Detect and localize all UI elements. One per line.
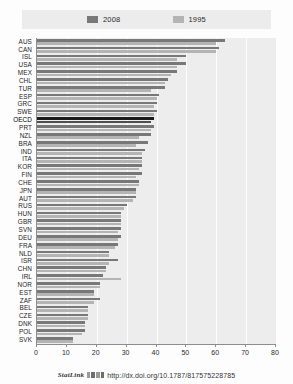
x-axis-tick-label-60: 60 xyxy=(211,349,219,356)
x-axis-tick xyxy=(245,344,246,347)
bar-row xyxy=(37,69,276,77)
y-axis-label-cze: CZE xyxy=(19,313,32,319)
bar-2008 xyxy=(37,227,121,230)
bar-row xyxy=(37,273,276,281)
x-axis-tick-label-80: 80 xyxy=(271,349,279,356)
bar-1995 xyxy=(37,325,85,328)
bar-2008 xyxy=(37,321,85,324)
x-axis-tick-label-0: 0 xyxy=(34,349,38,356)
bar-1995 xyxy=(37,293,94,296)
bar-row xyxy=(37,281,276,289)
bar-row xyxy=(37,242,276,250)
x-axis-tick xyxy=(66,344,67,347)
y-axis-label-kor: KOR xyxy=(18,164,32,170)
y-axis-label-bel: BEL xyxy=(20,305,32,311)
y-axis-label-irl: IRL xyxy=(22,274,32,280)
bar-2008 xyxy=(37,329,85,332)
y-axis-label-isl: ISL xyxy=(22,54,32,60)
bar-1995 xyxy=(37,42,216,45)
y-axis-label-nld: NLD xyxy=(19,251,32,257)
bar-1995 xyxy=(37,270,106,273)
bar-row xyxy=(37,93,276,101)
bar-1995 xyxy=(37,254,109,257)
x-axis-tick xyxy=(36,344,37,347)
bar-1995 xyxy=(37,105,154,108)
x-axis-tick-label-50: 50 xyxy=(181,349,189,356)
bar-row xyxy=(37,266,276,274)
bar-2008 xyxy=(37,219,121,222)
bar-row xyxy=(37,62,276,70)
bar-2008 xyxy=(37,86,165,89)
y-axis-label-aus: AUS xyxy=(19,39,32,45)
bar-1995 xyxy=(37,301,94,304)
statlink-label: StatLink xyxy=(58,371,85,379)
statlink-url-link[interactable]: http://dx.doi.org/10.1787/817575228785 xyxy=(107,372,235,379)
bar-1995 xyxy=(37,136,139,139)
bar-rows xyxy=(37,38,276,344)
bar-1995 xyxy=(37,238,118,241)
bar-2008 xyxy=(37,188,136,191)
legend-item-2008: 2008 xyxy=(87,16,121,24)
bar-row xyxy=(37,101,276,109)
y-axis-label-fra: FRA xyxy=(19,243,32,249)
bar-2008 xyxy=(37,180,139,183)
chart-footer: StatLink http://dx.doi.org/10.1787/81757… xyxy=(0,368,293,382)
bar-2008 xyxy=(37,196,136,199)
y-axis-label-esp: ESP xyxy=(19,94,32,100)
bar-2008 xyxy=(37,266,106,269)
bar-row xyxy=(37,258,276,266)
bar-1995 xyxy=(37,121,151,124)
bar-1995 xyxy=(37,231,118,234)
bar-row xyxy=(37,85,276,93)
bar-1995 xyxy=(37,74,171,77)
bar-1995 xyxy=(37,223,121,226)
bar-2008 xyxy=(37,298,100,301)
y-axis-label-mex: MEX xyxy=(18,70,32,76)
bar-1995 xyxy=(37,199,133,202)
x-axis-tick-label-20: 20 xyxy=(92,349,100,356)
bar-1995 xyxy=(37,168,139,171)
y-axis-label-nor: NOR xyxy=(17,282,32,288)
bar-1995 xyxy=(37,246,115,249)
bar-row xyxy=(37,336,276,344)
bar-row xyxy=(37,203,276,211)
bar-2008 xyxy=(37,141,148,144)
y-axis-label-isr: ISR xyxy=(21,258,32,264)
y-axis-label-chn: CHN xyxy=(18,266,32,272)
y-axis-label-deu: DEU xyxy=(18,235,32,241)
y-axis-label-hun: HUN xyxy=(18,211,32,217)
bar-2008 xyxy=(37,133,151,136)
bar-2008 xyxy=(37,204,127,207)
legend-swatch-2008 xyxy=(87,16,98,23)
bar-2008 xyxy=(37,212,121,215)
y-axis-label-aut: AUT xyxy=(19,196,32,202)
bar-row xyxy=(37,54,276,62)
y-axis-label-dnk: DNK xyxy=(18,321,32,327)
y-axis-label-est: EST xyxy=(19,290,32,296)
bar-2008 xyxy=(37,235,121,238)
plot-area xyxy=(36,38,276,344)
bar-row xyxy=(37,46,276,54)
bar-row xyxy=(37,164,276,172)
bar-row xyxy=(37,148,276,156)
y-axis-label-jpn: JPN xyxy=(20,188,32,194)
bar-2008 xyxy=(37,117,154,120)
y-axis-label-tur: TUR xyxy=(19,86,32,92)
bar-row xyxy=(37,305,276,313)
bar-1995 xyxy=(37,113,154,116)
bar-row xyxy=(37,313,276,321)
bar-1995 xyxy=(37,184,139,187)
bar-2008 xyxy=(37,157,142,160)
bar-1995 xyxy=(37,317,88,320)
bar-2008 xyxy=(37,70,177,73)
y-axis-label-pol: POL xyxy=(19,329,32,335)
y-axis-label-grc: GRC xyxy=(17,101,32,107)
gridline xyxy=(276,38,277,344)
x-axis-tick-label-10: 10 xyxy=(62,349,70,356)
bar-row xyxy=(37,140,276,148)
bar-row xyxy=(37,179,276,187)
bar-2008 xyxy=(37,259,118,262)
y-axis-label-can: CAN xyxy=(18,47,32,53)
y-axis-label-rus: RUS xyxy=(18,203,32,209)
y-axis-label-svn: SVN xyxy=(19,227,32,233)
